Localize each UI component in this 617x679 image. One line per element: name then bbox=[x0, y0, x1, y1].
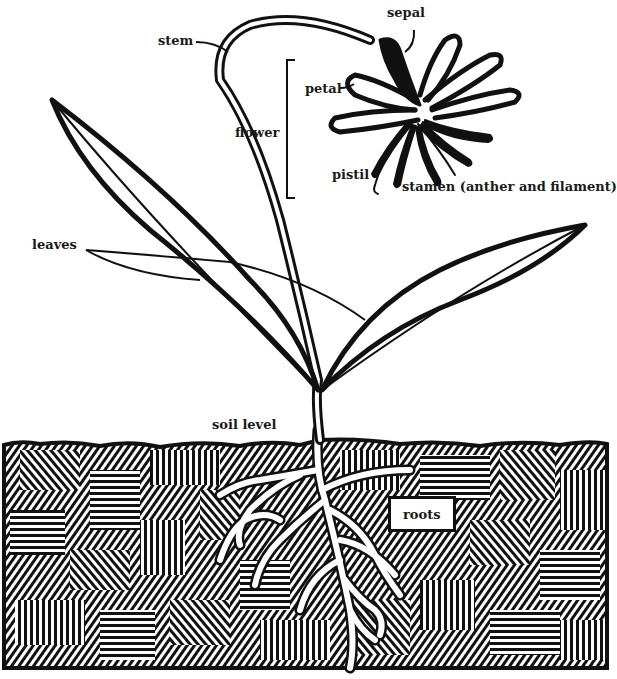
label-pistil: pistil bbox=[332, 168, 369, 181]
label-soil-level: soil level bbox=[212, 418, 276, 431]
roots-label-box: roots bbox=[388, 496, 456, 532]
label-leaders bbox=[196, 30, 414, 198]
soil bbox=[0, 430, 611, 670]
label-leaves: leaves bbox=[32, 238, 77, 251]
label-petal: petal bbox=[305, 82, 342, 95]
label-stamen: stamen (anther and filament) bbox=[402, 180, 617, 193]
label-roots: roots bbox=[403, 507, 441, 522]
leaves-illustration bbox=[52, 100, 585, 390]
label-flower: flower bbox=[235, 126, 279, 139]
label-stem: stem bbox=[158, 34, 193, 47]
label-sepal: sepal bbox=[387, 6, 425, 19]
